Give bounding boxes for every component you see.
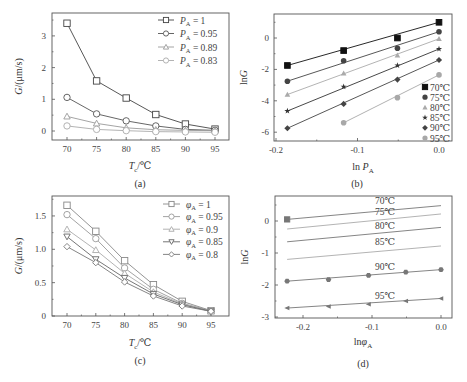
fit-line [287,32,439,81]
x-axis-label: Tc/℃ [129,337,152,351]
legend-label: 95℃ [430,134,451,144]
y-tick-label: -6 [262,127,270,137]
data-point-marker [341,58,347,64]
series-5: 90℃ [284,262,443,284]
data-point-marker [284,108,290,114]
legend-label: PA = 0.95 [179,29,217,41]
x-tick-label: 75 [91,320,101,330]
y-tick-label: 0 [265,216,270,226]
data-point-marker [285,78,291,84]
x-axis-label: Tc/℃ [129,160,152,174]
fit-line [287,49,439,111]
data-point-marker [123,95,129,101]
data-point-marker [64,226,70,232]
fit-line [287,206,441,220]
y-tick-label: -4 [262,96,270,106]
data-point-marker [64,123,70,129]
data-point-marker [64,113,70,119]
y-axis-label: G/(μm/s) [13,238,25,274]
data-point-marker [422,95,427,100]
x-tick-label: 80 [120,320,130,330]
data-point-marker [169,201,174,206]
series-4 [284,46,442,114]
series-line [67,237,211,312]
x-tick-label: 90 [181,144,191,154]
series-5 [284,57,442,131]
data-point-marker [284,306,289,310]
series-1: 70℃ [285,196,441,222]
data-point-marker [163,58,168,63]
x-tick-label: 70 [63,144,73,154]
series-3: 80℃ [287,221,441,242]
series-3 [64,226,214,314]
y-tick-label: 1.0 [35,244,47,254]
data-point-marker [64,202,70,208]
x-tick-label: 0.0 [435,322,447,332]
data-point-marker [93,235,99,241]
data-point-marker [153,111,159,117]
figure-canvas: 7075808590950123PA = 1PA = 0.95PA = 0.89… [0,0,467,382]
fit-line [287,246,441,259]
legend-label: 85℃ [430,113,451,123]
panel-caption: (a) [134,178,145,190]
chart-panel-c: 70758085909500.51.01.5φA = 1φA = 0.95φA … [13,196,229,367]
data-point-marker [64,211,70,217]
y-axis-label: G/(μm/s) [13,58,25,94]
series-2 [64,94,218,133]
fit-line [287,22,439,65]
series-annotation: 80℃ [375,221,396,231]
data-point-marker [341,48,347,54]
data-point-marker [153,128,159,134]
data-point-marker [395,95,401,101]
y-tick-label: 0 [42,126,47,136]
fit-line [287,214,441,229]
y-tick-label: 3 [42,31,47,41]
data-point-marker [163,31,168,36]
y-tick-label: -2 [262,64,270,74]
x-tick-label: -0.2 [269,145,283,155]
data-point-marker [436,72,442,78]
series-2: 75℃ [287,207,441,229]
series-annotation: 95℃ [375,291,396,301]
data-point-marker [121,257,127,263]
data-point-marker [438,267,444,272]
x-tick-label: -0.1 [365,322,379,332]
y-tick-label: -2 [262,280,270,290]
chart-panel-a: 7075808590950123PA = 1PA = 0.95PA = 0.89… [13,13,229,190]
x-tick-label: 70 [63,320,73,330]
data-point-marker [182,129,188,135]
y-axis-label: lnG [238,70,249,85]
x-tick-label: 85 [149,320,159,330]
data-point-marker [403,270,409,275]
data-point-marker [169,252,174,257]
data-point-marker [366,273,372,278]
data-point-marker [64,20,70,26]
y-tick-label: 0.5 [35,278,47,288]
data-point-marker [123,127,129,133]
y-tick-label: 0 [265,33,270,43]
data-point-marker [123,118,129,124]
series-line [67,23,215,129]
x-tick-label: 0.0 [433,145,445,155]
data-point-marker [436,36,442,41]
x-tick-label: 75 [92,144,102,154]
data-point-marker [422,135,427,140]
legend-label: φA = 0.9 [186,225,218,237]
chart-panel-b: -0.2-0.10.0-6-4-2070℃75℃80℃85℃90℃95℃lnGl… [238,14,452,190]
x-axis-label: ln PA [352,161,373,175]
legend-label: φA = 0.85 [186,237,223,249]
y-tick-label: 1.5 [35,211,47,221]
data-point-marker [422,125,428,131]
y-tick-label: 0 [42,311,47,321]
y-tick-label: -1 [262,248,270,258]
data-point-marker [212,129,218,135]
data-point-marker [341,120,347,126]
x-tick-label: 90 [178,320,188,330]
x-axis-label: lnφA [354,336,372,350]
legend-label: 90℃ [430,123,451,133]
legend-label: φA = 0.8 [186,250,218,262]
series-annotation: 70℃ [375,196,396,206]
legend-label: PA = 0.89 [179,43,217,55]
data-point-marker [163,17,168,22]
y-tick-label: 1 [42,94,47,104]
